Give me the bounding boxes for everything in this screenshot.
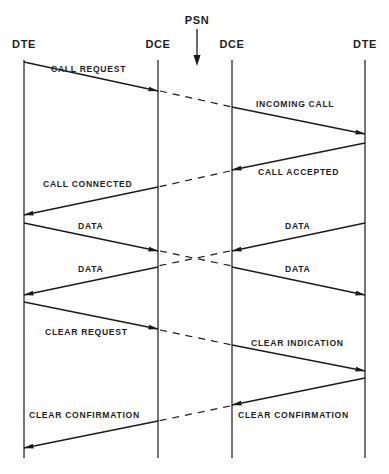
- network-transit-dashed-line: [160, 91, 232, 107]
- message-data-right-in: DATA: [232, 264, 365, 295]
- message-label: CLEAR CONFIRMATION: [29, 410, 140, 420]
- message-label: CLEAR REQUEST: [45, 327, 128, 337]
- message-call-accepted: CALL ACCEPTED: [158, 143, 365, 187]
- arrow-icon: [232, 345, 365, 371]
- sequence-diagram: PSN DTE DCE DCE DTE CALL REQUEST INCOMIN…: [0, 0, 389, 474]
- psn-label: PSN: [185, 14, 209, 26]
- message-label: CLEAR CONFIRMATION: [238, 410, 349, 420]
- arrow-icon: [232, 107, 365, 134]
- message-label: CALL ACCEPTED: [258, 167, 339, 177]
- message-label: DATA: [285, 221, 310, 231]
- arrow-icon: [24, 421, 158, 448]
- arrow-icon: [24, 187, 158, 215]
- psn-down-arrow-icon: [194, 29, 201, 66]
- network-transit-dashed-line: [158, 171, 230, 187]
- network-transit-dashed-line: [160, 330, 232, 345]
- arrow-icon: [232, 378, 365, 405]
- entity-label-dce-right: DCE: [219, 38, 244, 50]
- network-transit-dashed-line: [158, 406, 230, 421]
- network-transit-dashed-line: [160, 251, 232, 266]
- message-label: DATA: [78, 221, 103, 231]
- message-label: DATA: [285, 264, 310, 274]
- message-label: CALL REQUEST: [51, 64, 126, 74]
- message-label: DATA: [78, 264, 103, 274]
- message-data-left-in: DATA: [24, 264, 158, 295]
- message-call-connected: CALL CONNECTED: [24, 179, 158, 215]
- message-clear-indication: CLEAR INDICATION: [232, 338, 365, 371]
- entity-label-dte-left: DTE: [12, 38, 36, 50]
- entity-label-dte-right: DTE: [353, 38, 377, 50]
- message-call-request: CALL REQUEST: [24, 62, 232, 107]
- message-data-left-out: DATA: [24, 221, 232, 266]
- entity-label-dce-left: DCE: [145, 38, 170, 50]
- message-clear-confirmation-right: CLEAR CONFIRMATION: [158, 378, 365, 421]
- message-clear-confirmation-left: CLEAR CONFIRMATION: [24, 410, 158, 448]
- arrow-icon: [232, 143, 365, 170]
- network-transit-dashed-line: [158, 251, 230, 266]
- arrow-icon: [24, 302, 158, 329]
- message-clear-request: CLEAR REQUEST: [24, 302, 232, 345]
- message-label: INCOMING CALL: [256, 99, 334, 109]
- message-data-right-out: DATA: [158, 221, 365, 266]
- message-label: CALL CONNECTED: [43, 179, 132, 189]
- message-label: CLEAR INDICATION: [251, 338, 344, 348]
- message-incoming-call: INCOMING CALL: [232, 99, 365, 134]
